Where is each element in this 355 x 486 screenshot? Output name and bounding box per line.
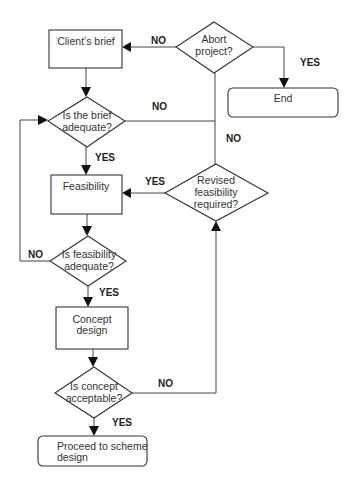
edge-label-abort-yes: YES [300, 57, 320, 68]
arrow-head-icon [82, 226, 92, 236]
node-label: Is feasibility [62, 248, 117, 260]
arrow-head-icon [211, 221, 221, 231]
node-label: adequate? [64, 260, 114, 272]
node-label: project? [195, 45, 233, 57]
arrow-head-icon [279, 78, 289, 88]
node-clients-brief: Client’s brief [49, 30, 122, 68]
edge-label-feas-yes: YES [99, 287, 119, 298]
edge-label-revised-yes: YES [145, 176, 165, 187]
node-concept-design: Concept design [56, 307, 128, 349]
node-proceed: Proceed to scheme design [38, 436, 148, 466]
edge-feas-no-line [20, 120, 50, 261]
node-label: required? [194, 198, 239, 210]
node-label: Abort [201, 33, 226, 45]
arrow-head-icon [81, 165, 91, 175]
arrow-head-icon [88, 357, 98, 367]
edge-abort-yes-line [253, 47, 284, 80]
edge-label-abort-no: NO [151, 35, 166, 46]
node-label: Revised [197, 174, 235, 186]
node-label: End [274, 92, 293, 104]
arrow-head-icon [81, 87, 91, 97]
node-feasibility-adequate: Is feasibility adequate? [50, 236, 126, 286]
node-label: adequate? [62, 121, 112, 133]
node-label: Is concept [70, 380, 118, 392]
node-concept-acceptable: Is concept acceptable? [55, 367, 132, 418]
arrow-head-icon [122, 188, 131, 198]
node-label: design [57, 451, 88, 463]
arrow-head-icon [38, 115, 48, 125]
node-label: Client’s brief [57, 35, 115, 47]
node-label: Is the brief [62, 109, 111, 121]
edge-label-feas-no: NO [28, 249, 43, 260]
edge-concept-no-line [132, 230, 216, 393]
node-label: design [77, 324, 108, 336]
edge-label-concept-yes: YES [112, 417, 132, 428]
node-label: feasibility [194, 186, 238, 198]
edge-label-abort-down-no: NO [226, 133, 241, 144]
edge-label-brief-yes: YES [95, 152, 115, 163]
flowchart-canvas: Client’s brief Abort project? End Is the… [0, 0, 355, 486]
node-end: End [228, 88, 338, 117]
node-label: acceptable? [66, 392, 123, 404]
node-abort-project: Abort project? [176, 22, 253, 73]
arrow-head-icon [89, 426, 99, 436]
arrow-head-icon [122, 42, 131, 52]
node-label: Feasibility [63, 180, 110, 192]
node-brief-adequate: Is the brief adequate? [48, 97, 125, 147]
edge-label-concept-no: NO [158, 378, 173, 389]
edge-label-brief-no: NO [152, 101, 167, 112]
arrow-head-icon [83, 297, 93, 307]
node-revised-feasibility: Revised feasibility required? [165, 164, 268, 221]
node-feasibility: Feasibility [51, 175, 122, 214]
